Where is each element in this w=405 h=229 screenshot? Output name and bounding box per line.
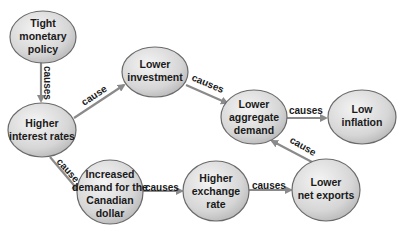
node-label-line: Increased bbox=[85, 168, 134, 180]
edge-label-cause: cause bbox=[288, 134, 318, 158]
node-tight-monetary-policy: Tight monetary policy bbox=[10, 11, 76, 63]
node-label-line: monetary bbox=[19, 30, 66, 42]
edge-label-causes: causes bbox=[145, 182, 179, 193]
node-label-line: Tight bbox=[30, 17, 56, 29]
node-label-line: Higher bbox=[199, 172, 232, 184]
node-lower-net-exports: Lower net exports bbox=[292, 159, 360, 221]
node-label-line: Canadian bbox=[86, 194, 133, 206]
node-label-line: investment bbox=[127, 71, 183, 83]
edge-investment-to-ad: causes bbox=[186, 72, 227, 103]
node-label-line: policy bbox=[28, 43, 59, 55]
node-label-line: net exports bbox=[298, 189, 355, 201]
node-lower-aggregate-demand: Lower aggregate demand bbox=[221, 90, 287, 144]
node-label-line: Lower bbox=[140, 58, 171, 70]
edge-exports-to-ad: cause bbox=[272, 134, 318, 162]
edge-label-causes: causes bbox=[252, 180, 286, 191]
edge-rates-to-investment: cause bbox=[74, 83, 124, 118]
node-higher-interest-rates: Higher interest rates bbox=[8, 103, 76, 157]
node-label-line: inflation bbox=[342, 116, 383, 128]
node-label-line: Higher bbox=[25, 117, 58, 129]
node-label-line: Lower bbox=[239, 98, 270, 110]
edge-label-causes: causes bbox=[190, 72, 226, 96]
edge-label-causes: causes bbox=[42, 66, 53, 100]
node-label-line: Lower bbox=[311, 176, 342, 188]
edge-cad-demand-to-exchange: causes bbox=[142, 182, 182, 193]
cause-effect-diagram: causes cause causes causes cause causes … bbox=[0, 0, 405, 229]
node-low-inflation: Low inflation bbox=[328, 90, 396, 144]
node-label-line: demand for the bbox=[72, 181, 148, 193]
edge-label-causes: causes bbox=[289, 105, 323, 116]
node-label-line: demand bbox=[234, 124, 274, 136]
node-label-line: Low bbox=[352, 103, 374, 115]
node-label-line: rate bbox=[206, 198, 225, 210]
edge-exchange-to-exports: causes bbox=[248, 180, 291, 191]
edge-ad-to-inflation: causes bbox=[287, 105, 326, 118]
node-increased-demand-canadian-dollar: Increased demand for the Canadian dollar bbox=[72, 160, 148, 224]
node-label-line: interest rates bbox=[9, 130, 75, 142]
node-label-line: dollar bbox=[96, 207, 125, 219]
node-lower-investment: Lower investment bbox=[122, 47, 188, 97]
edge-policy-to-rates: causes bbox=[41, 62, 53, 101]
node-higher-exchange-rate: Higher exchange rate bbox=[183, 161, 249, 221]
node-label-line: aggregate bbox=[229, 111, 279, 123]
node-label-line: exchange bbox=[192, 185, 241, 197]
